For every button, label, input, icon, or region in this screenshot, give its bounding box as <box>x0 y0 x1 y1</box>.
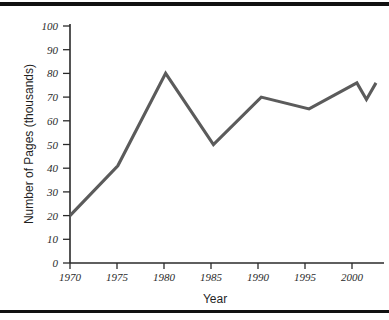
y-tick-label: 50 <box>47 139 59 151</box>
line-chart: 100 90 80 70 60 50 40 30 20 10 0 1970 19… <box>0 0 389 320</box>
y-tick-label: 90 <box>47 44 59 56</box>
y-tick-label: 100 <box>42 20 59 32</box>
y-tick-marks <box>63 26 70 263</box>
x-tick-label: 1995 <box>294 271 317 283</box>
y-tick-label: 40 <box>47 162 59 174</box>
y-tick-label: 70 <box>47 91 59 103</box>
y-tick-labels: 100 90 80 70 60 50 40 30 20 10 0 <box>42 20 59 269</box>
y-tick-label: 60 <box>47 115 59 127</box>
x-axis-title: Year <box>203 292 227 306</box>
y-tick-label: 0 <box>53 257 59 269</box>
y-tick-label: 10 <box>47 233 59 245</box>
chart-figure: 100 90 80 70 60 50 40 30 20 10 0 1970 19… <box>0 0 389 320</box>
x-tick-labels: 1970 1975 1980 1985 1990 1995 2000 <box>59 271 364 283</box>
x-tick-label: 2000 <box>341 271 364 283</box>
x-tick-label: 1980 <box>153 271 176 283</box>
y-tick-label: 80 <box>47 67 59 79</box>
y-axis-title: Number of Pages (thousands) <box>22 64 36 224</box>
x-tick-label: 1975 <box>106 271 129 283</box>
x-tick-label: 1990 <box>247 271 270 283</box>
x-tick-label: 1970 <box>59 271 82 283</box>
data-series-line <box>70 73 376 215</box>
y-tick-label: 20 <box>47 210 59 222</box>
x-tick-marks <box>70 263 352 269</box>
x-tick-label: 1985 <box>200 271 223 283</box>
y-tick-label: 30 <box>46 186 59 198</box>
